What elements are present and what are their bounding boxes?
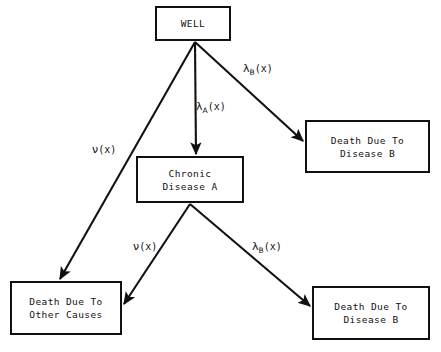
edge-label-argument: (x) xyxy=(208,101,226,112)
edge-label-chronic-disease-a-to-death-disease-b-bottom: λB(x) xyxy=(252,241,282,255)
node-chronic-disease-a-line-1: Disease A xyxy=(162,180,217,193)
illness-death-diagram: WELL Chronic Disease A Death Due To Dise… xyxy=(0,0,441,352)
node-death-disease-b-top-line-0: Death Due To xyxy=(331,134,404,147)
edge-label-argument: (x) xyxy=(98,144,116,155)
node-death-disease-b-bottom-line-1: Disease B xyxy=(343,313,398,326)
node-death-other-causes-line-1: Other Causes xyxy=(29,308,102,321)
edge-well-to-chronic-disease-a xyxy=(195,42,196,154)
node-well-line-0: WELL xyxy=(181,17,205,30)
edge-label-argument: (x) xyxy=(255,63,273,74)
edge-label-well-to-chronic-disease-a: λA(x) xyxy=(196,101,226,115)
node-death-due-to-disease-b-bottom[interactable]: Death Due To Disease B xyxy=(312,286,430,340)
edge-label-argument: (x) xyxy=(139,241,157,252)
edge-label-chronic-disease-a-to-other-causes: ν(x) xyxy=(133,241,157,255)
node-well[interactable]: WELL xyxy=(155,6,231,41)
node-death-due-to-disease-b-top[interactable]: Death Due To Disease B xyxy=(305,120,430,173)
node-death-other-causes-line-0: Death Due To xyxy=(29,295,102,308)
edge-label-well-to-death-disease-b-top: λB(x) xyxy=(243,63,273,77)
node-chronic-disease-a[interactable]: Chronic Disease A xyxy=(136,156,244,203)
node-chronic-disease-a-line-0: Chronic xyxy=(169,167,212,180)
edge-well-to-death-disease-b-top xyxy=(195,42,303,141)
edge-label-argument: (x) xyxy=(264,241,282,252)
node-death-disease-b-bottom-line-0: Death Due To xyxy=(334,300,407,313)
edge-chronic-disease-a-to-death-disease-b-bottom xyxy=(190,204,310,306)
edge-label-well-to-other-causes: ν(x) xyxy=(92,144,116,158)
node-death-due-to-other-causes[interactable]: Death Due To Other Causes xyxy=(10,281,122,335)
node-death-disease-b-top-line-1: Disease B xyxy=(340,147,395,160)
